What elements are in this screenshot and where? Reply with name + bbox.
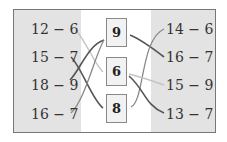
right-expression-1: 14 − 6 [166, 21, 213, 37]
answer-box-9: 9 [106, 18, 127, 47]
right-expression-3: 15 − 9 [166, 77, 213, 93]
answer-box-6: 6 [106, 57, 127, 86]
right-expression-4: 13 − 7 [166, 106, 213, 122]
left-expression-3: 18 − 9 [31, 77, 78, 93]
right-expression-2: 16 − 7 [166, 49, 213, 65]
answer-box-8: 8 [106, 94, 127, 123]
left-expression-4: 16 − 7 [31, 106, 78, 122]
left-expression-2: 15 − 7 [31, 49, 78, 65]
left-expression-1: 12 − 6 [31, 21, 78, 37]
